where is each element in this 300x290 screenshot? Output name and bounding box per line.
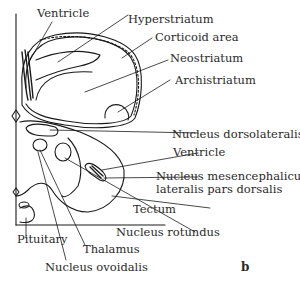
archistriatum-shape [105,105,129,120]
label-nucleus-mesencephalicus-2: lateralis pars dorsalis [156,183,282,196]
pituitary-stalk [19,202,29,208]
label-archistriatum: Archistriatum [175,74,256,87]
label-corticoid-area: Corticoid area [155,31,239,44]
label-hyperstriatum: Hyperstriatum [128,13,214,26]
label-nucleus-ovoidalis: Nucleus ovoidalis [45,261,148,274]
brain-diagram: Ventricle Hyperstriatum Corticoid area N… [0,0,300,290]
label-thalamus: Thalamus [83,243,140,256]
corticoid-line [40,36,139,115]
label-nucleus-dorsolateralis: Nucleus dorsolateralis [172,128,300,141]
label-ventricle-mid: Ventricle [173,146,225,159]
label-neostriatum: Neostriatum [170,52,243,65]
tectal-inner-contour [62,138,81,197]
pituitary-shape [20,206,34,223]
brain-drawing [0,0,300,290]
panel-letter: b [241,261,249,274]
label-nucleus-rotundus: Nucleus rotundus [116,226,220,239]
label-ventricle-top: Ventricle [37,7,89,20]
nucleus-ovoidalis-shape [33,139,47,151]
label-tectum: Tectum [133,203,176,216]
label-pituitary: Pituitary [17,233,68,246]
nucleus-rotundus-shape [55,143,71,161]
